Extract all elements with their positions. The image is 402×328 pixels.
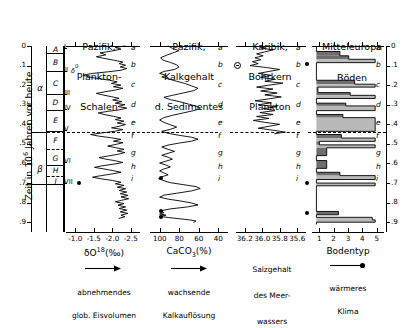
stage-letter: i bbox=[296, 174, 298, 183]
bars-central-europe-soils bbox=[312, 46, 384, 232]
stage-letter: c bbox=[376, 80, 380, 89]
event-dash-segment bbox=[308, 132, 386, 133]
data-curve bbox=[159, 46, 201, 222]
axis-tick bbox=[179, 42, 180, 46]
event-marker-dot bbox=[305, 181, 309, 185]
stage-letter: i bbox=[218, 174, 220, 183]
soil-unit-label: E bbox=[53, 116, 58, 125]
soil-unit-label: F bbox=[53, 135, 57, 144]
axis-tick bbox=[297, 228, 298, 232]
soil-unit-label: B bbox=[53, 57, 58, 66]
greek-zone-label: α bbox=[34, 84, 46, 93]
right-time-axis-line bbox=[386, 46, 387, 232]
soil-bar bbox=[316, 148, 326, 156]
time-tick-label: .2 bbox=[6, 81, 26, 89]
soil-unit-label: D bbox=[53, 97, 59, 106]
panel0-axis-label: δO18(‰) bbox=[66, 247, 142, 258]
soil-unit-label: H bbox=[53, 166, 59, 175]
axis-tick bbox=[280, 42, 281, 46]
soil-unit-cell: F bbox=[47, 131, 64, 150]
soil-unit-label: C bbox=[53, 78, 58, 87]
time-tick bbox=[386, 85, 390, 86]
axis-tick bbox=[199, 228, 200, 232]
panel1-bottom-axis bbox=[150, 232, 228, 233]
soil-unit-cell: D bbox=[47, 94, 64, 111]
soil-bar bbox=[316, 115, 342, 118]
stage-letter: a bbox=[296, 43, 301, 52]
axis-tick bbox=[334, 42, 335, 46]
axis-tick bbox=[262, 228, 263, 232]
soil-bar bbox=[316, 135, 341, 139]
panel1-direction-arrow bbox=[171, 265, 207, 272]
time-tick-label: .4 bbox=[391, 120, 398, 128]
panel3-direction-arrow bbox=[330, 262, 366, 269]
axis-tick bbox=[245, 228, 246, 232]
stage-letter: b bbox=[296, 60, 301, 69]
greek-zone-boundary bbox=[32, 184, 46, 185]
axis-tick bbox=[348, 42, 349, 46]
soil-unit-cell: B bbox=[47, 53, 64, 72]
axis-tick-label: 40 bbox=[205, 235, 231, 243]
time-tick-label: .9 bbox=[6, 218, 26, 226]
stage-letter: g bbox=[218, 148, 223, 157]
stage-letter: g bbox=[296, 148, 301, 157]
axis-tick bbox=[179, 228, 180, 232]
stage-letter: e bbox=[131, 118, 136, 127]
time-tick-label: .8 bbox=[6, 198, 26, 206]
curve-pacific-carbonate bbox=[150, 46, 228, 232]
time-tick-label: .7 bbox=[391, 179, 398, 187]
soil-bar bbox=[316, 51, 340, 55]
time-tick-label: .1 bbox=[6, 61, 26, 69]
axis-tick bbox=[319, 42, 320, 46]
axis-tick bbox=[199, 42, 200, 46]
axis-tick bbox=[112, 228, 113, 232]
soil-bar bbox=[316, 118, 375, 132]
time-tick-label: .7 bbox=[6, 179, 26, 187]
axis-tick bbox=[334, 228, 335, 232]
time-tick bbox=[386, 163, 390, 164]
axis-tick bbox=[348, 228, 349, 232]
soil-unit-cell: C bbox=[47, 71, 64, 95]
panel3-bottom-axis bbox=[312, 232, 384, 233]
stage-letter: a bbox=[376, 43, 381, 52]
stage-letter: e bbox=[296, 118, 301, 127]
soil-bar bbox=[316, 211, 338, 214]
time-tick-label: .1 bbox=[391, 61, 398, 69]
stage-letter: h bbox=[376, 162, 381, 171]
axis-tick bbox=[218, 228, 219, 232]
event-dash-segment bbox=[142, 132, 218, 133]
soil-bar bbox=[316, 59, 375, 62]
time-tick-label: .5 bbox=[6, 139, 26, 147]
time-tick bbox=[386, 124, 390, 125]
soil-unit-label: G bbox=[53, 153, 59, 162]
axis-tick bbox=[94, 42, 95, 46]
time-tick bbox=[386, 222, 390, 223]
soil-unit-cell: H bbox=[47, 165, 64, 177]
stage-letter: c bbox=[131, 80, 135, 89]
stage-letter: b bbox=[376, 60, 381, 69]
panel-pacific-carbonate bbox=[150, 46, 228, 232]
time-tick-label: .8 bbox=[391, 198, 398, 206]
event-dash-segment bbox=[230, 132, 300, 133]
axis-tick-label: -2.5 bbox=[118, 235, 144, 243]
stage-letter: d bbox=[376, 100, 381, 109]
axis-tick bbox=[75, 42, 76, 46]
stage-letter: d bbox=[296, 100, 301, 109]
axis-tick bbox=[112, 42, 113, 46]
panel-axis-top bbox=[66, 46, 140, 47]
stage-letter: a bbox=[218, 43, 223, 52]
time-tick-label: .6 bbox=[6, 159, 26, 167]
panel2-bottom-axis bbox=[236, 232, 306, 233]
axis-tick bbox=[245, 42, 246, 46]
axis-tick bbox=[160, 228, 161, 232]
time-tick-label: 0 bbox=[6, 42, 26, 50]
soil-unit-label: I bbox=[54, 176, 56, 185]
stage-letter: g bbox=[376, 148, 381, 157]
axis-tick bbox=[377, 228, 378, 232]
stage-letter: i bbox=[131, 174, 133, 183]
event-marker-dot bbox=[305, 211, 309, 215]
panel1-axis-label: CaCO3(%) bbox=[148, 247, 230, 259]
time-tick-label: .5 bbox=[391, 139, 398, 147]
soil-bar bbox=[316, 176, 375, 180]
